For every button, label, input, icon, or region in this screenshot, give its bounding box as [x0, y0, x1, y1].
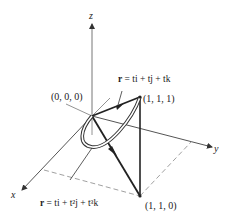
direction-arrow-icon — [108, 146, 117, 156]
point-111-label: (1, 1, 1) — [143, 93, 175, 105]
point-111-marker — [138, 95, 141, 98]
xy-plane-projection — [44, 141, 192, 196]
cubic-equation: r = ti + t²j + t³k — [40, 198, 98, 208]
z-axis-label: z — [88, 10, 93, 21]
point-110-label: (1, 1, 0) — [145, 200, 177, 212]
point-110-marker — [138, 194, 141, 197]
projection-path — [92, 116, 140, 196]
y-axis — [92, 116, 212, 147]
x-axis-label: x — [10, 189, 16, 200]
x-axis — [22, 116, 92, 190]
y-axis-label: y — [213, 143, 219, 154]
line-equation: r = ti + tj + tk — [118, 74, 171, 84]
cubic-equation-rhs: = ti + t²j + t³k — [44, 198, 98, 208]
line-equation-rhs: = ti + tj + tk — [122, 74, 171, 84]
negative-axis-extensions — [66, 98, 110, 135]
twisted-cubic-diagram: z y x (0, 0, 0) (1, 1, 1) (1, 1, 0) r = … — [0, 0, 226, 220]
twisted-cubic-curve — [82, 97, 140, 147]
origin-label: (0, 0, 0) — [51, 91, 83, 103]
